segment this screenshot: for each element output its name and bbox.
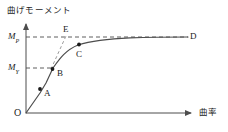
point-label-c: C [76, 50, 82, 59]
point-label-d: D [190, 32, 197, 41]
y-axis-title: 曲げモーメント [7, 6, 71, 15]
plot-canvas [0, 0, 228, 132]
y-tick-mp-main: M [8, 31, 16, 41]
moment-curvature-curve [26, 37, 188, 113]
point-marker-c [77, 43, 81, 47]
point-label-e: E [63, 25, 69, 34]
point-label-a: A [44, 89, 51, 98]
elastic-tangent-extension [51, 36, 66, 69]
moment-curvature-figure: 曲げモーメント 曲率 MP MY O A B C D E [0, 0, 228, 132]
y-tick-label-my: MY [8, 63, 19, 74]
x-axis-title: 曲率 [199, 108, 217, 117]
origin-label: O [14, 108, 21, 118]
y-tick-label-mp: MP [8, 32, 19, 43]
y-tick-my-main: M [8, 62, 16, 72]
point-marker-b [51, 67, 55, 71]
point-label-b: B [57, 69, 63, 78]
point-marker-a [38, 87, 42, 91]
y-tick-my-sub: Y [16, 69, 19, 75]
y-tick-mp-sub: P [16, 38, 20, 44]
